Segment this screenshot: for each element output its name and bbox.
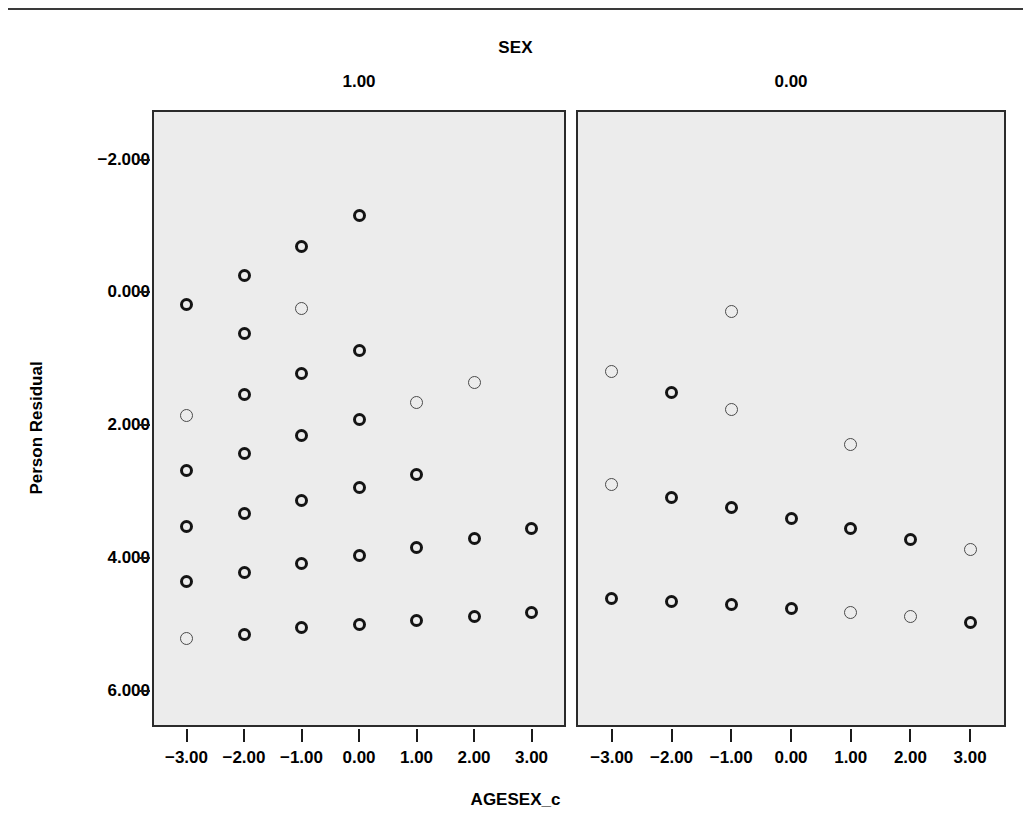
header-rule [8,8,1023,10]
y-tick-label: 0.000 [54,282,150,302]
panel-label-sex-1: 1.00 [152,72,566,92]
data-point [295,367,308,380]
data-point [295,494,308,507]
y-tick-mark [138,690,150,692]
data-point [725,403,738,416]
data-point [844,438,857,451]
data-point [844,522,857,535]
data-point [605,365,618,378]
x-axis-title: AGESEX_c [0,790,1031,810]
data-point [410,614,423,627]
data-point [725,305,738,318]
data-point [238,566,251,579]
data-point [238,269,251,282]
data-point [238,388,251,401]
data-point [180,632,193,645]
x-tick-mark [473,729,475,742]
data-point [410,541,423,554]
data-point [353,618,366,631]
data-point [180,464,193,477]
scatter-panel-sex-0 [576,110,1006,727]
plot-area-sex-0 [578,112,1004,725]
data-point [785,602,798,615]
x-tick-mark [243,729,245,742]
x-tick-mark [358,729,360,742]
data-point [964,616,977,629]
x-tick-mark [730,729,732,742]
data-point [295,302,308,315]
data-point [180,298,193,311]
x-tick-mark [850,729,852,742]
data-point [353,344,366,357]
x-tick-mark [416,729,418,742]
y-axis: 6.0004.0002.0000.000−2.000 [0,0,150,832]
data-point [785,512,798,525]
data-point [238,628,251,641]
data-point [725,501,738,514]
data-point [665,491,678,504]
y-tick-mark [138,291,150,293]
data-point [904,610,917,623]
data-point [525,522,538,535]
x-tick-mark [301,729,303,742]
data-point [525,606,538,619]
data-point [295,240,308,253]
data-point [468,376,481,389]
data-point [295,429,308,442]
data-point [605,592,618,605]
data-point [964,543,977,556]
y-tick-mark [138,557,150,559]
data-point [353,209,366,222]
data-point [844,606,857,619]
data-point [410,396,423,409]
y-axis-title: Person Residual [27,318,47,538]
data-point [468,610,481,623]
data-point [238,327,251,340]
plot-area-sex-1 [154,112,564,725]
data-point [605,478,618,491]
figure-title: SEX [0,38,1031,58]
figure-container: SEX 1.00 0.00 6.0004.0002.0000.000−2.000… [0,0,1031,832]
x-tick-mark [969,729,971,742]
data-point [353,413,366,426]
x-tick-mark [790,729,792,742]
data-point [295,621,308,634]
data-point [665,595,678,608]
y-tick-label: 2.000 [54,415,150,435]
x-tick-mark [531,729,533,742]
y-tick-label: 4.000 [54,548,150,568]
data-point [238,447,251,460]
y-tick-label: −2.000 [54,150,150,170]
data-point [180,520,193,533]
panel-label-sex-0: 0.00 [576,72,1006,92]
data-point [904,533,917,546]
data-point [665,386,678,399]
data-point [725,598,738,611]
x-tick-label: 3.00 [935,748,1005,768]
data-point [180,409,193,422]
data-point [353,549,366,562]
data-point [238,507,251,520]
x-tick-mark [671,729,673,742]
x-tick-mark [909,729,911,742]
data-point [353,481,366,494]
data-point [180,575,193,588]
x-tick-mark [186,729,188,742]
y-tick-label: 6.000 [54,681,150,701]
data-point [410,468,423,481]
x-tick-label: 3.00 [497,748,567,768]
y-tick-mark [138,424,150,426]
data-point [295,557,308,570]
data-point [468,532,481,545]
x-tick-mark [611,729,613,742]
scatter-panel-sex-1 [152,110,566,727]
y-tick-mark [138,159,150,161]
